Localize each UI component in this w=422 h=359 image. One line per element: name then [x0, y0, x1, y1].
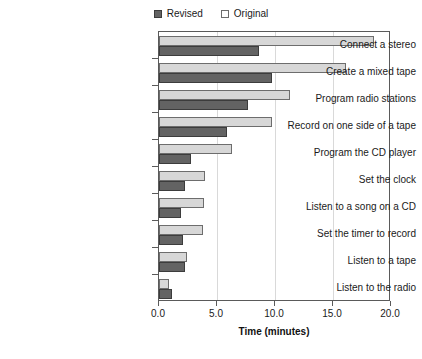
- bar-revised: [159, 181, 185, 191]
- x-axis-tick-label: 0.0: [138, 308, 178, 320]
- dark-swatch-icon: [154, 10, 162, 18]
- x-axis-title: Time (minutes): [158, 326, 390, 338]
- chart-legend: Revised Original: [0, 9, 422, 19]
- y-axis-tick: [152, 58, 158, 59]
- bar-revised: [159, 208, 181, 218]
- x-axis-tick: [332, 301, 333, 306]
- legend-item-original: Original: [221, 9, 268, 19]
- bar-revised: [159, 100, 248, 110]
- x-axis-tick: [274, 301, 275, 306]
- y-axis-label: Program radio stations: [270, 93, 422, 104]
- y-axis-label: Connect a stereo: [270, 39, 422, 50]
- bar-original: [159, 225, 203, 235]
- y-axis-tick: [152, 139, 158, 140]
- x-axis-tick: [390, 301, 391, 306]
- bar-revised: [159, 46, 259, 56]
- x-axis-tick-label: 20.0: [370, 308, 410, 320]
- y-axis-tick: [152, 193, 158, 194]
- y-axis-label: Create a mixed tape: [270, 66, 422, 77]
- y-axis-tick: [152, 274, 158, 275]
- y-axis-label: Set the timer to record: [270, 228, 422, 239]
- bar-original: [159, 117, 272, 127]
- bar-original: [159, 171, 205, 181]
- x-axis-tick-label: 10.0: [254, 308, 294, 320]
- x-axis-tick-label: 15.0: [312, 308, 352, 320]
- bar-original: [159, 279, 169, 289]
- y-axis-tick: [152, 112, 158, 113]
- y-axis-label: Record on one side of a tape: [270, 120, 422, 131]
- light-swatch-icon: [221, 10, 229, 18]
- bar-original: [159, 144, 232, 154]
- x-axis-tick: [216, 301, 217, 306]
- bar-revised: [159, 73, 272, 83]
- x-axis-tick: [158, 301, 159, 306]
- bar-revised: [159, 262, 185, 272]
- y-axis-label: Listen to a tape: [270, 255, 422, 266]
- x-axis-tick-label: 5.0: [196, 308, 236, 320]
- y-axis-label: Listen to a song on a CD: [270, 201, 422, 212]
- bar-original: [159, 252, 187, 262]
- bar-chart: Revised Original Connect a stereoCreate …: [0, 0, 422, 359]
- y-axis-tick: [152, 166, 158, 167]
- legend-label-original: Original: [234, 9, 268, 19]
- y-axis-tick: [152, 220, 158, 221]
- y-axis-label: Listen to the radio: [270, 282, 422, 293]
- bar-original: [159, 198, 204, 208]
- y-axis-label: Program the CD player: [270, 147, 422, 158]
- bar-revised: [159, 235, 183, 245]
- legend-item-revised: Revised: [154, 9, 203, 19]
- bar-revised: [159, 154, 191, 164]
- legend-label-revised: Revised: [167, 9, 203, 19]
- bar-revised: [159, 127, 227, 137]
- y-axis-tick: [152, 85, 158, 86]
- bar-revised: [159, 289, 172, 299]
- y-axis-label: Set the clock: [270, 174, 422, 185]
- y-axis-tick: [152, 247, 158, 248]
